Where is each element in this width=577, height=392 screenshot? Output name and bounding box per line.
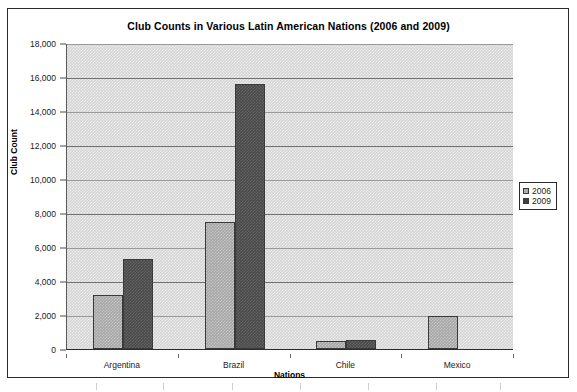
x-axis-tick (513, 354, 514, 358)
y-axis-labels: 02,0004,0006,0008,00010,00012,00014,0001… (0, 44, 66, 350)
legend-item-2006: 2006 (523, 187, 551, 196)
legend-swatch-icon-2006 (523, 188, 529, 194)
bar-brazil-2006 (205, 222, 235, 349)
y-axis-tick-label: 4,000 (35, 277, 56, 287)
legend-item-2009: 2009 (523, 197, 551, 206)
x-axis-labels: ArgentinaBrazilChileMexico (66, 354, 513, 370)
x-axis-tick-label: Mexico (444, 360, 471, 370)
bar-brazil-2009 (235, 84, 265, 349)
bar-argentina-2006 (93, 295, 123, 349)
legend-label-2006: 2006 (532, 187, 551, 196)
y-axis-tick-label: 16,000 (30, 73, 56, 83)
plot-area (66, 44, 513, 350)
x-axis-tick (66, 354, 67, 358)
y-axis-tick-label: 10,000 (30, 175, 56, 185)
chart-title: Club Counts in Various Latin American Na… (0, 20, 577, 32)
footer-tick (500, 383, 501, 390)
x-axis-tick-label: Brazil (223, 360, 244, 370)
y-axis-tick-label: 12,000 (30, 141, 56, 151)
footer-tick (232, 383, 233, 390)
x-axis-tick (290, 354, 291, 358)
y-axis-tick-label: 8,000 (35, 209, 56, 219)
legend-swatch-icon-2009 (523, 198, 529, 204)
chart-figure: Club Counts in Various Latin American Na… (0, 0, 577, 392)
footer-tick-marks (0, 383, 577, 392)
x-axis-tick (401, 354, 402, 358)
x-axis-tick-label: Argentina (104, 360, 140, 370)
y-axis-tick-label: 0 (51, 345, 56, 355)
footer-tick (436, 383, 437, 390)
bar-argentina-2009 (123, 259, 153, 349)
y-axis-tick-label: 18,000 (30, 39, 56, 49)
x-axis-tick-label: Chile (336, 360, 355, 370)
footer-tick (368, 383, 369, 390)
x-axis-title: Nations (66, 370, 513, 380)
y-axis-tick-label: 2,000 (35, 311, 56, 321)
bar-chile-2006 (316, 341, 346, 349)
chart-legend: 2006 2009 (519, 182, 557, 210)
footer-tick (300, 383, 301, 390)
footer-tick (163, 383, 164, 390)
y-axis-tick-label: 14,000 (30, 107, 56, 117)
bar-mexico-2006 (428, 316, 458, 349)
bars-layer (67, 44, 513, 349)
legend-label-2009: 2009 (532, 197, 551, 206)
footer-tick (96, 383, 97, 390)
y-axis-tick-label: 6,000 (35, 243, 56, 253)
x-axis-tick (178, 354, 179, 358)
bar-chile-2009 (346, 340, 376, 349)
